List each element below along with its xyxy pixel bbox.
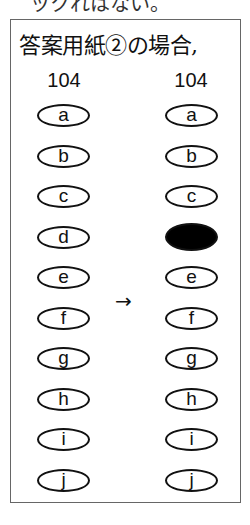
answer-bubble-i[interactable]: i [37,428,90,451]
answer-bubble-f[interactable]: f [165,307,218,330]
answer-bubble-e[interactable]: e [37,266,90,289]
answer-bubble-j[interactable]: j [165,469,218,492]
answer-bubble-g[interactable]: g [37,347,90,370]
answer-bubble-e[interactable]: e [165,266,218,289]
answer-bubble-g[interactable]: g [165,347,218,370]
question-number-after: 104 [161,69,221,92]
answer-bubble-a[interactable]: a [37,104,90,127]
answer-bubble-h[interactable]: h [165,388,218,411]
answer-bubble-b[interactable]: b [37,145,90,168]
arrow-right-icon: → [115,289,132,313]
answer-bubble-d[interactable]: d [37,226,90,249]
answer-bubble-i[interactable]: i [165,428,218,451]
answer-bubble-f[interactable]: f [37,307,90,330]
answer-bubble-j[interactable]: j [37,469,90,492]
answer-bubble-b[interactable]: b [165,145,218,168]
example-title: 答案用紙②の場合, [19,27,198,59]
question-number-before: 104 [34,69,94,92]
cropped-preceding-text: ックれはない。 [30,0,170,17]
answer-bubble-d[interactable]: d [165,223,218,251]
answer-bubble-a[interactable]: a [165,104,218,127]
answer-bubble-c[interactable]: c [37,185,90,208]
answer-bubble-c[interactable]: c [165,185,218,208]
answer-bubble-h[interactable]: h [37,388,90,411]
